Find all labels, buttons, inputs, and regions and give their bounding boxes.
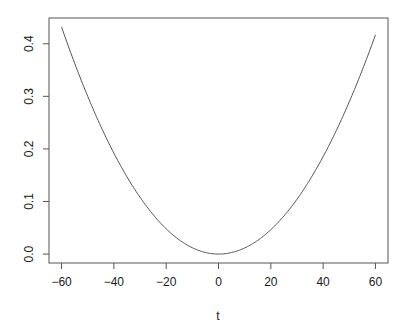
x-tick-label: 40 [316, 275, 330, 289]
x-tick-label: 0 [215, 275, 222, 289]
y-axis: 0.00.10.20.30.4 [22, 35, 49, 262]
x-tick-label: −40 [104, 275, 125, 289]
y-tick-label: 0.0 [22, 245, 36, 262]
x-tick-label: 20 [264, 275, 278, 289]
plot-frame [49, 18, 388, 263]
x-tick-label: 60 [369, 275, 383, 289]
y-tick-label: 0.2 [22, 140, 36, 157]
x-tick-label: −60 [51, 275, 72, 289]
x-tick-label: −20 [156, 275, 177, 289]
chart-canvas: −60−40−200204060 0.00.10.20.30.4 t [0, 0, 406, 333]
data-curve [62, 27, 376, 254]
y-tick-label: 0.3 [22, 88, 36, 105]
y-tick-label: 0.4 [22, 35, 36, 52]
y-tick-label: 0.1 [22, 193, 36, 210]
x-axis-label: t [216, 309, 220, 323]
x-axis: −60−40−200204060 [51, 263, 382, 289]
